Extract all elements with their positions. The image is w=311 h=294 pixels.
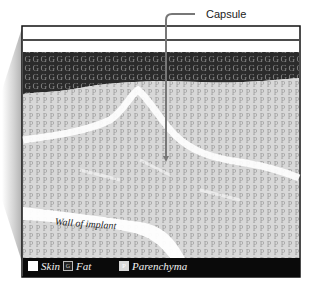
legend-item-skin: Skin xyxy=(28,260,60,272)
fat-swatch-icon: G xyxy=(63,261,73,271)
parenchyma-swatch-icon: P xyxy=(119,261,129,271)
implant-diagram: G P xyxy=(0,0,311,294)
skin-layer xyxy=(23,27,299,40)
legend-label: Skin xyxy=(41,260,60,272)
legend-item-parenchyma: P Parenchyma xyxy=(119,260,187,272)
legend: Skin G Fat P Parenchyma xyxy=(23,258,300,277)
legend-label: Fat xyxy=(76,260,91,272)
legend-label: Parenchyma xyxy=(132,260,187,272)
skin-swatch-icon xyxy=(28,261,38,271)
capsule-label: Capsule xyxy=(206,8,246,20)
legend-item-fat: G Fat xyxy=(63,260,91,272)
side-shadow xyxy=(2,28,22,262)
